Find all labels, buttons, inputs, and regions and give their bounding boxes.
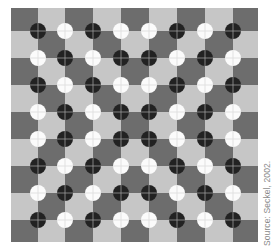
- white-disc: [141, 77, 157, 93]
- black-disc: [197, 185, 213, 201]
- white-disc: [113, 23, 129, 39]
- black-disc: [30, 158, 46, 174]
- black-disc: [57, 104, 73, 120]
- black-disc: [141, 131, 157, 147]
- black-disc: [169, 77, 185, 93]
- black-disc: [225, 212, 241, 228]
- white-disc: [225, 104, 241, 120]
- white-disc: [85, 104, 101, 120]
- black-disc: [141, 50, 157, 66]
- black-disc: [141, 104, 157, 120]
- black-disc: [57, 131, 73, 147]
- black-disc: [225, 23, 241, 39]
- black-disc: [169, 23, 185, 39]
- black-disc: [197, 131, 213, 147]
- white-disc: [197, 212, 213, 228]
- white-disc: [225, 185, 241, 201]
- checkerboard-squares: [11, 8, 258, 242]
- black-disc: [197, 104, 213, 120]
- white-disc: [30, 185, 46, 201]
- black-disc: [30, 77, 46, 93]
- black-disc: [85, 23, 101, 39]
- black-disc: [113, 50, 129, 66]
- white-disc: [85, 185, 101, 201]
- black-disc: [169, 212, 185, 228]
- white-disc: [57, 77, 73, 93]
- black-disc: [113, 185, 129, 201]
- black-disc: [85, 77, 101, 93]
- black-disc: [113, 104, 129, 120]
- white-disc: [169, 131, 185, 147]
- white-disc: [169, 50, 185, 66]
- white-disc: [225, 131, 241, 147]
- black-disc: [141, 185, 157, 201]
- black-disc: [30, 23, 46, 39]
- white-disc: [141, 212, 157, 228]
- white-disc: [197, 158, 213, 174]
- black-disc: [30, 212, 46, 228]
- white-disc: [141, 23, 157, 39]
- black-disc: [225, 77, 241, 93]
- white-disc: [85, 50, 101, 66]
- white-disc: [57, 23, 73, 39]
- black-disc: [85, 158, 101, 174]
- white-disc: [197, 77, 213, 93]
- source-caption: Source: Seckel, 2002.: [262, 161, 272, 246]
- checkerboard-illusion-figure: [0, 0, 277, 251]
- black-disc: [57, 185, 73, 201]
- white-disc: [30, 131, 46, 147]
- black-disc: [85, 212, 101, 228]
- white-disc: [113, 212, 129, 228]
- white-disc: [225, 50, 241, 66]
- white-disc: [57, 212, 73, 228]
- white-disc: [85, 131, 101, 147]
- white-disc: [113, 77, 129, 93]
- black-disc: [225, 158, 241, 174]
- white-disc: [197, 23, 213, 39]
- black-disc: [169, 158, 185, 174]
- white-disc: [169, 185, 185, 201]
- white-disc: [30, 104, 46, 120]
- white-disc: [57, 158, 73, 174]
- black-disc: [197, 50, 213, 66]
- white-disc: [141, 158, 157, 174]
- white-disc: [30, 50, 46, 66]
- black-disc: [57, 50, 73, 66]
- black-disc: [113, 131, 129, 147]
- white-disc: [169, 104, 185, 120]
- white-disc: [113, 158, 129, 174]
